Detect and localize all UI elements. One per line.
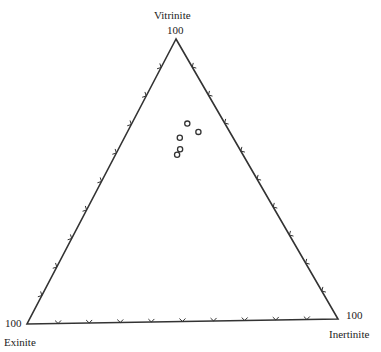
tick-mark [112, 149, 116, 154]
data-points [175, 121, 201, 157]
tick-mark [38, 291, 42, 296]
data-point-marker [177, 135, 182, 140]
tick-mark [241, 147, 245, 152]
data-point-marker [196, 129, 201, 134]
tick-mark [289, 231, 293, 236]
vertex-label-exinite: Exinite [4, 337, 36, 348]
tick-mark [83, 206, 87, 211]
tick-mark [192, 63, 196, 68]
vertex-label-inertinite: Inertinite [329, 329, 369, 340]
tick-marks [38, 63, 326, 324]
tick-mark [273, 203, 277, 208]
data-point-marker [178, 147, 183, 152]
vertex-value-vitrinite: 100 [167, 25, 184, 36]
ternary-plot [0, 0, 381, 352]
vertex-value-exinite: 100 [5, 318, 22, 329]
tick-mark [157, 63, 161, 68]
vertex-value-inertinite: 100 [346, 310, 363, 321]
tick-mark [127, 120, 131, 125]
vertex-label-vitrinite: Vitrinite [154, 10, 191, 21]
tick-mark [322, 287, 326, 292]
tick-mark [208, 91, 212, 96]
tick-mark [97, 177, 101, 182]
tick-mark [68, 234, 72, 239]
tick-mark [225, 119, 229, 124]
tick-mark [142, 92, 146, 97]
data-point-marker [175, 152, 180, 157]
data-point-marker [185, 121, 190, 126]
tick-mark [306, 259, 310, 264]
tick-mark [53, 263, 57, 268]
triangle-outline [27, 39, 338, 324]
tick-mark [257, 175, 261, 180]
